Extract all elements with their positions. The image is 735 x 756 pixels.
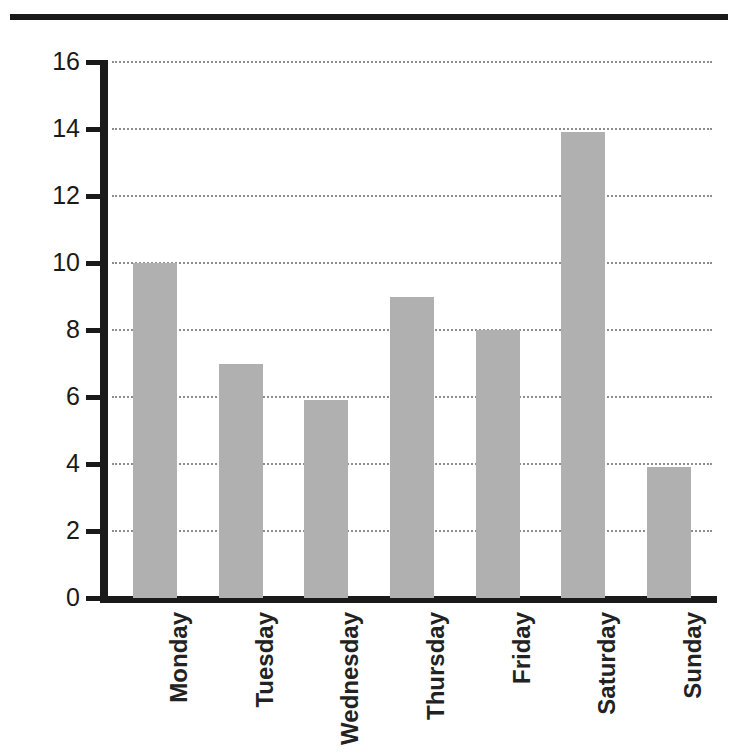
y-axis-tick (86, 462, 101, 467)
y-axis-tick-label: 4 (0, 451, 80, 476)
y-axis-tick-label: 14 (0, 116, 80, 141)
y-axis-tick-label: 10 (0, 250, 80, 275)
y-axis-tick (86, 529, 101, 534)
y-axis-tick-label: 16 (0, 49, 80, 74)
bar (647, 467, 691, 598)
bar-chart-plot-area: 0246810121416 MondayTuesdayWednesdayThur… (0, 0, 735, 756)
x-axis-tick-label: Friday (510, 612, 534, 756)
bar (476, 330, 520, 598)
y-axis-tick (86, 194, 101, 199)
x-axis-tick-label: Wednesday (338, 612, 362, 756)
y-axis-tick-label: 8 (0, 317, 80, 342)
x-axis-tick-label: Monday (167, 612, 191, 756)
gridline (112, 262, 712, 266)
y-axis-tick-label: 12 (0, 183, 80, 208)
y-axis-tick (86, 596, 101, 601)
x-axis-tick-label: Thursday (424, 612, 448, 756)
bar (219, 364, 263, 599)
y-axis-tick (86, 328, 101, 333)
y-axis-tick-label: 0 (0, 585, 80, 610)
bar (133, 263, 177, 598)
y-axis-tick (86, 261, 101, 266)
gridline (112, 61, 712, 65)
x-axis-tick-label: Tuesday (253, 612, 277, 756)
y-axis-tick (86, 60, 101, 65)
gridline (112, 128, 712, 132)
gridline (112, 195, 712, 199)
y-axis-tick (86, 127, 101, 132)
bar (561, 132, 605, 598)
y-axis-tick (86, 395, 101, 400)
y-axis-tick-label: 2 (0, 518, 80, 543)
figure-container: g 0246810121416 MondayTuesdayWednesdayTh… (0, 0, 735, 756)
x-axis-tick-label: Saturday (595, 612, 619, 756)
y-axis-tick-label: 6 (0, 384, 80, 409)
x-axis-tick-label: Sunday (681, 612, 705, 756)
y-axis-line (100, 60, 108, 602)
bar (304, 400, 348, 598)
bar (390, 297, 434, 599)
